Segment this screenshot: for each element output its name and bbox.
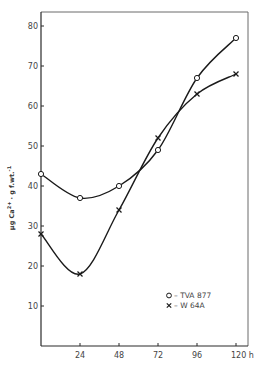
circle-marker-icon [77, 195, 82, 200]
y-axis-label: μg Ca2+· g f.wt.-1 [6, 165, 16, 230]
cross-marker-icon [195, 92, 200, 97]
cross-marker-icon [117, 208, 122, 213]
x-tick-label: 24 [75, 351, 85, 360]
chart-canvas: 1020304050607080 24487296120 h μg Ca2+· … [0, 0, 265, 367]
circle-marker-icon [116, 183, 121, 188]
series-line-tva-877 [41, 38, 236, 198]
legend-label: – W 64A [174, 301, 205, 310]
y-tick-label: 70 [28, 62, 38, 71]
y-axis-label-main: μg Ca [8, 209, 16, 230]
y-axis-label-superscript: 2+ [6, 202, 12, 210]
cross-marker-icon [167, 303, 171, 307]
cross-marker-icon [156, 136, 161, 141]
legend: – TVA 877– W 64A [167, 291, 212, 310]
y-tick-label: 40 [28, 182, 38, 191]
y-tick-label: 60 [28, 102, 38, 111]
svg-text:μg Ca2+· g f.wt.-1: μg Ca2+· g f.wt.-1 [6, 165, 16, 230]
series-curves [41, 38, 236, 274]
x-tick-label: 48 [114, 351, 124, 360]
x-tick-label: 120 h [231, 351, 254, 360]
circle-marker-icon [233, 35, 238, 40]
circle-marker-icon [38, 171, 43, 176]
circle-marker-icon [155, 147, 160, 152]
legend-item: – TVA 877 [167, 291, 212, 300]
circle-marker-icon [167, 293, 172, 298]
legend-label: – TVA 877 [174, 291, 211, 300]
series-line-w-64a [41, 74, 236, 274]
y-tick-label: 30 [28, 222, 38, 231]
y-axis-label-exponent: -1 [6, 165, 12, 171]
y-tick-label: 20 [28, 262, 38, 271]
y-axis-label-unit: · g f.wt. [8, 171, 16, 199]
plot-frame [41, 12, 248, 346]
legend-item: – W 64A [167, 301, 206, 310]
series-markers [38, 35, 238, 276]
y-tick-label: 80 [28, 22, 38, 31]
x-tick-label: 96 [192, 351, 202, 360]
y-tick-label: 10 [28, 302, 38, 311]
x-tick-label: 72 [153, 351, 163, 360]
circle-marker-icon [194, 75, 199, 80]
y-tick-label: 50 [28, 142, 38, 151]
cross-marker-icon [234, 72, 239, 77]
